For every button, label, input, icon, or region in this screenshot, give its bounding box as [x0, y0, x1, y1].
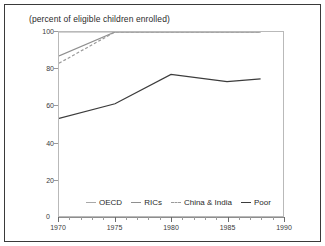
legend-label: China & India — [184, 198, 232, 207]
x-axis-tick-label: 1980 — [163, 224, 179, 231]
legend-swatch-icon — [86, 202, 96, 203]
x-axis-tick-minor — [261, 217, 262, 220]
x-axis-tick-minor — [205, 217, 206, 220]
legend-item[interactable]: China & India — [171, 198, 232, 207]
legend-label: OECD — [99, 198, 122, 207]
x-axis-tick-label: 1970 — [50, 224, 66, 231]
x-axis-tick-major — [171, 217, 172, 222]
y-axis-tick-label: 100 — [42, 28, 54, 35]
legend-label: Poor — [254, 198, 271, 207]
x-axis-tick-minor — [81, 217, 82, 220]
x-axis-tick-major — [58, 217, 59, 222]
x-axis-tick-minor — [250, 217, 251, 220]
plot-lines — [59, 32, 283, 216]
legend-swatch-icon — [241, 202, 251, 203]
x-axis-tick-major — [284, 217, 285, 222]
legend-item[interactable]: Poor — [241, 198, 271, 207]
x-axis-tick-label: 1985 — [220, 224, 236, 231]
series-line-rics — [59, 32, 261, 56]
chart-title: (percent of eligible children enrolled) — [29, 14, 170, 24]
legend-item[interactable]: OECD — [86, 198, 122, 207]
x-axis-tick-major — [115, 217, 116, 222]
x-axis-tick-minor — [137, 217, 138, 220]
y-axis-labels: 20406080100 — [36, 31, 54, 217]
y-axis-tick-label: 60 — [46, 102, 54, 109]
x-axis-tick-minor — [160, 217, 161, 220]
x-axis-tick-minor — [103, 217, 104, 220]
chart-legend: OECDRICsChina & IndiaPoor — [86, 196, 280, 208]
legend-label: RICs — [144, 198, 162, 207]
y-axis-tick-mark — [54, 31, 58, 32]
x-axis-tick-minor — [273, 217, 274, 220]
legend-item[interactable]: RICs — [131, 198, 162, 207]
x-axis-tick-minor — [92, 217, 93, 220]
legend-swatch-icon — [131, 202, 141, 203]
x-axis-tick-minor — [216, 217, 217, 220]
y-axis-tick-mark — [54, 68, 58, 69]
chart-figure: (percent of eligible children enrolled) … — [0, 0, 325, 246]
y-axis-tick-mark — [54, 105, 58, 106]
x-axis-tick-minor — [194, 217, 195, 220]
y-axis-zero-label: 0 — [46, 213, 50, 220]
legend-swatch-icon — [171, 202, 181, 203]
x-axis-tick-minor — [126, 217, 127, 220]
y-axis-tick-mark — [54, 180, 58, 181]
x-axis-tick-label: 1975 — [107, 224, 123, 231]
x-axis-tick-minor — [182, 217, 183, 220]
series-line-poor — [59, 74, 261, 118]
y-axis-tick-label: 20 — [46, 176, 54, 183]
series-line-china-india — [59, 32, 261, 63]
y-axis-tick-label: 80 — [46, 65, 54, 72]
y-axis-tick-mark — [54, 143, 58, 144]
x-axis-tick-minor — [69, 217, 70, 220]
plot-area — [58, 31, 284, 217]
x-axis-tick-minor — [239, 217, 240, 220]
x-axis-tick-major — [228, 217, 229, 222]
x-axis-tick-label: 1990 — [276, 224, 292, 231]
y-axis-tick-label: 40 — [46, 139, 54, 146]
x-axis-tick-minor — [148, 217, 149, 220]
